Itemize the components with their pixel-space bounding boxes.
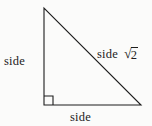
radicand-value: 2 <box>131 47 138 62</box>
right-angle-marker-icon <box>44 96 53 105</box>
square-root-of-two: √ 2 <box>124 47 138 62</box>
right-triangle-figure: side side side √ 2 <box>0 0 152 126</box>
hypotenuse-label: side √ 2 <box>97 47 138 62</box>
horizontal-leg-label: side <box>70 111 91 124</box>
vertical-leg-label: side <box>4 55 25 68</box>
hypotenuse-label-text: side <box>97 48 118 61</box>
